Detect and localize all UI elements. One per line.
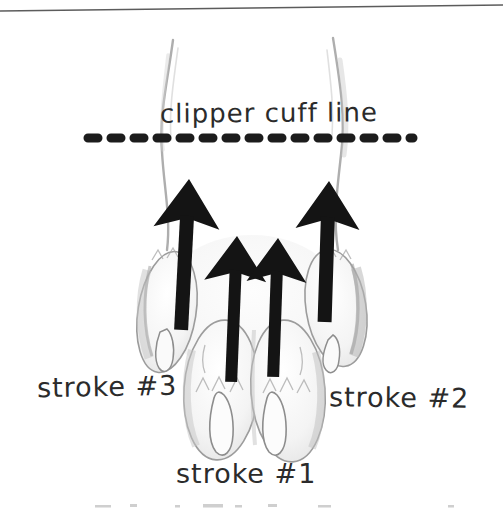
stroke-2-label: stroke #2: [329, 383, 470, 411]
dog-paw-illustration: [0, 0, 503, 510]
page-rule-line: [0, 5, 503, 11]
illustration-panel: clipper cuff line stroke #3 stroke #2 st…: [0, 0, 503, 510]
clipper-cuff-line-label: clipper cuff line: [160, 99, 360, 126]
stroke-3-label: stroke #3: [37, 372, 178, 401]
stroke-1-label: stroke #1: [176, 460, 316, 487]
cropped-caption-remnant: [95, 504, 454, 508]
outer-left-nail: [156, 329, 174, 371]
